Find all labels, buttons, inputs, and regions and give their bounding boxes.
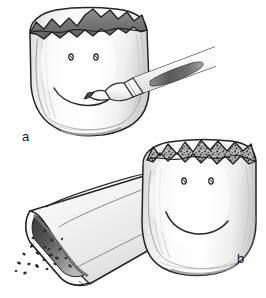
panel-b xyxy=(15,140,256,286)
panel-label-b: b xyxy=(237,252,244,265)
illustration-canvas xyxy=(0,0,266,298)
panel-a xyxy=(30,8,216,136)
figure-container: a b xyxy=(0,0,266,298)
panel-label-a: a xyxy=(22,130,29,143)
